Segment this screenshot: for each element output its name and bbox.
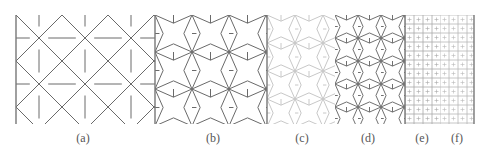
panel-label-b: (b) <box>206 131 220 146</box>
panel-label-f: (f) <box>451 131 463 146</box>
panel-label-a: (a) <box>76 131 89 146</box>
panel-d-pattern <box>335 15 450 153</box>
panel-label-d: (d) <box>361 131 375 146</box>
panel-label-c: (c) <box>295 131 308 146</box>
metamaterial-pattern-figure: (a) (b) (c) (d) (e) (f) <box>0 0 490 159</box>
panel-b-pattern <box>155 15 340 159</box>
panel-label-e: (e) <box>415 131 428 146</box>
panel-f-pattern <box>440 15 485 141</box>
